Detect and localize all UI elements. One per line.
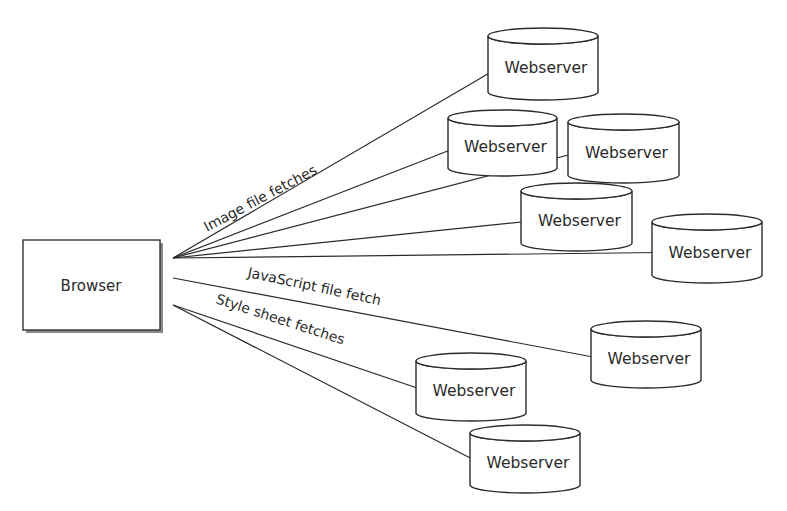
diagram-canvas: Browser Image file fetches JavaScript fi… [0,0,787,511]
webserver-label: Webserver [464,138,547,156]
webserver-node: Webserver [568,114,679,183]
webserver-label: Webserver [505,59,588,77]
webserver-label: Webserver [669,244,752,262]
webserver-node: Webserver [448,110,557,176]
browser-label: Browser [61,277,123,295]
webserver-node: Webserver [488,28,598,100]
webserver-cylinder-top [416,353,526,369]
webserver-cylinder-top [470,425,580,441]
webserver-label: Webserver [538,212,621,230]
webserver-node: Webserver [470,425,580,493]
webserver-cylinder-top [568,114,679,130]
edge-label-stylesheet-fetches: Style sheet fetches [214,291,347,348]
browser-node: Browser [23,240,163,333]
webserver-cylinder-top [448,110,557,126]
webserver-label: Webserver [585,144,668,162]
webservers: WebserverWebserverWebserverWebserverWebs… [416,28,762,493]
connection-line-javascript [173,278,601,359]
webserver-node: Webserver [416,353,526,421]
connection-line-image [173,253,662,259]
webserver-node: Webserver [591,321,701,388]
webserver-cylinder-top [488,28,598,44]
webserver-cylinder-top [652,214,762,230]
webserver-node: Webserver [521,183,632,251]
connection-line-image [173,147,458,258]
webserver-cylinder-top [521,183,632,199]
edge-label-javascript-fetch: JavaScript file fetch [245,264,382,308]
webserver-label: Webserver [433,382,516,400]
webserver-node: Webserver [652,214,762,283]
webserver-label: Webserver [608,350,691,368]
webserver-cylinder-top [591,321,701,337]
webserver-label: Webserver [487,454,570,472]
